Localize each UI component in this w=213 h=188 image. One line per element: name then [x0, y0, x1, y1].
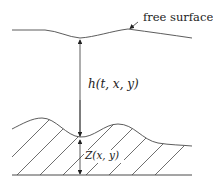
bottom-topography-curve — [12, 118, 192, 146]
bottom-height-label: Z(x, y) — [85, 149, 119, 161]
free-surface-curve — [12, 29, 192, 38]
depth-label: h(t, x, y) — [88, 77, 139, 91]
free-surface-label: free surface — [143, 10, 213, 24]
free-surface-pointer-arrow — [130, 22, 138, 29]
